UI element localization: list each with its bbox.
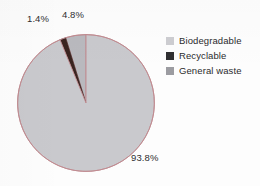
- pie-label-general-waste-percent: 4.8%: [62, 9, 84, 20]
- legend-item-recyclable[interactable]: Recyclable: [166, 48, 260, 63]
- legend-swatch-general-waste: [166, 67, 174, 75]
- legend-item-biodegradable[interactable]: Biodegradable: [166, 33, 260, 48]
- legend-label-biodegradable: Biodegradable: [179, 35, 242, 46]
- legend-swatch-recyclable: [166, 52, 174, 60]
- pie-slice-biodegradable[interactable]: [18, 35, 155, 172]
- legend-swatch-biodegradable: [166, 37, 174, 45]
- chart-legend: Biodegradable Recyclable General waste: [166, 33, 260, 78]
- legend-item-general-waste[interactable]: General waste: [166, 63, 260, 78]
- legend-label-recyclable: Recyclable: [179, 50, 226, 61]
- pie-chart-screenshot: 1.4% 4.8% 93.8% Biodegradable Recyclable…: [0, 0, 260, 186]
- pie-label-recyclable-percent: 1.4%: [27, 13, 49, 24]
- legend-label-general-waste: General waste: [179, 65, 242, 76]
- pie-label-biodegradable-percent: 93.8%: [131, 152, 158, 163]
